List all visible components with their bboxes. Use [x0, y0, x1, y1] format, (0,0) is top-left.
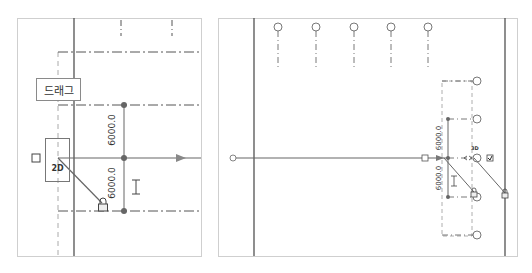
- right-drawing-canvas: [0, 0, 532, 273]
- grid-end-circle-icon[interactable]: [230, 155, 236, 161]
- dimension-point[interactable]: [446, 117, 450, 121]
- checked-checkbox-icon[interactable]: [487, 155, 493, 161]
- dimension-point[interactable]: [446, 195, 450, 199]
- checkbox-square-icon[interactable]: [422, 155, 428, 161]
- leader-line: [474, 158, 505, 193]
- dimension-text-lower[interactable]: 6000.0: [435, 166, 443, 191]
- arrow-right-icon[interactable]: [436, 155, 444, 161]
- lock-icon[interactable]: [471, 188, 477, 197]
- grid-bubbles-top[interactable]: [274, 23, 432, 69]
- dimension-text-upper[interactable]: 6000.0: [435, 126, 443, 151]
- i-beam-icon[interactable]: [451, 176, 457, 186]
- view-mode-3d-badge[interactable]: 3D: [471, 145, 479, 151]
- dimension-point[interactable]: [446, 156, 450, 160]
